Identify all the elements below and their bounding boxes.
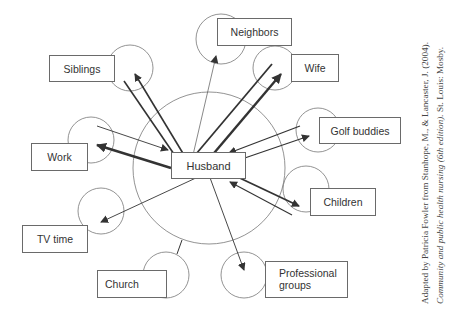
node-siblings: Siblings bbox=[49, 55, 115, 82]
arrow-husband-to-wife bbox=[209, 74, 281, 159]
professional-circle bbox=[221, 252, 267, 298]
arrow-husband-to-work bbox=[97, 145, 171, 168]
arrow-husband-to-golf bbox=[236, 136, 309, 161]
golf-label: Golf buddies bbox=[331, 125, 390, 137]
tv-label: TV time bbox=[37, 233, 73, 245]
siblings-label: Siblings bbox=[64, 63, 101, 75]
node-tv-time: TV time bbox=[22, 225, 88, 253]
node-work: Work bbox=[31, 143, 88, 171]
professional-label-line2: groups bbox=[279, 279, 311, 291]
citation: Adapted by Patricia Fowler from Stanhope… bbox=[412, 8, 452, 308]
arrow-husband-to-professional bbox=[209, 175, 244, 270]
citation-line2: Community and public health nursing (6th… bbox=[433, 14, 448, 304]
node-children: Children bbox=[310, 188, 376, 216]
citation-line1: Adapted by Patricia Fowler from Stanhope… bbox=[418, 14, 433, 304]
neighbors-label: Neighbors bbox=[231, 26, 279, 38]
husband-label: Husband bbox=[186, 160, 230, 172]
node-church: Church bbox=[97, 270, 167, 298]
node-wife: Wife bbox=[291, 54, 339, 82]
node-golf-buddies: Golf buddies bbox=[319, 117, 401, 144]
arrow-siblings-to-husband bbox=[124, 81, 178, 160]
citation-title: Community and public health nursing (6th… bbox=[435, 114, 445, 304]
node-husband: Husband bbox=[171, 152, 246, 179]
line-church bbox=[177, 240, 182, 254]
arrow-husband-to-siblings bbox=[135, 74, 187, 160]
church-label: Church bbox=[105, 278, 139, 290]
arrow-golf-to-husband bbox=[229, 126, 300, 153]
professional-label-line1: Professional bbox=[279, 267, 337, 279]
node-neighbors: Neighbors bbox=[217, 18, 292, 46]
children-label: Children bbox=[323, 196, 362, 208]
citation-publisher: St. Louis: Mosby. bbox=[435, 47, 445, 115]
wife-label: Wife bbox=[305, 62, 326, 74]
node-professional-groups: Professional groups bbox=[265, 261, 348, 298]
work-label: Work bbox=[47, 151, 71, 163]
arrow-to-neighbors bbox=[193, 56, 216, 155]
